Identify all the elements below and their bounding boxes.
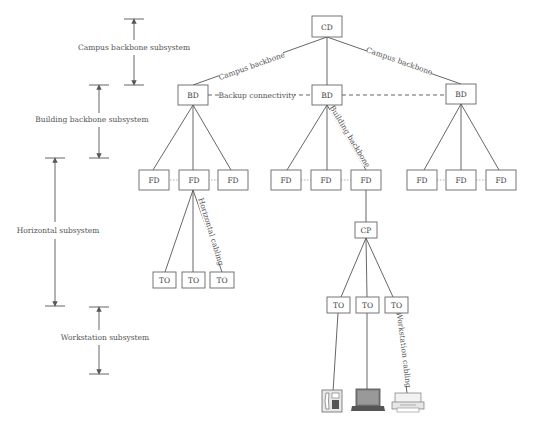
node-fd: FD bbox=[311, 170, 341, 190]
laptop-icon bbox=[351, 389, 385, 411]
svg-text:FD: FD bbox=[360, 176, 371, 185]
workstation-cabling-label: Workstation cabling bbox=[395, 311, 413, 388]
node-to: TO bbox=[210, 272, 234, 288]
printer-icon bbox=[392, 393, 424, 412]
svg-text:FD: FD bbox=[188, 176, 199, 185]
subsystem-building-backbone: Building backbone subsystem bbox=[35, 85, 148, 158]
campus-backbone-links: Campus backbone Campus backbone bbox=[193, 37, 461, 85]
node-fd: FD bbox=[218, 170, 248, 190]
node-to: TO bbox=[153, 272, 176, 288]
node-to: TO bbox=[327, 297, 350, 313]
svg-text:TO: TO bbox=[362, 301, 373, 310]
subsystem-label: Building backbone subsystem bbox=[35, 115, 148, 124]
telephone-icon bbox=[322, 390, 342, 412]
backup-connectivity-label: Backup connectivity bbox=[218, 91, 296, 100]
svg-text:TO: TO bbox=[391, 301, 402, 310]
svg-text:FD: FD bbox=[148, 176, 159, 185]
svg-text:FD: FD bbox=[416, 176, 427, 185]
campus-backbone-label: Campus backbone bbox=[365, 45, 434, 77]
node-bd-mid: BD bbox=[312, 85, 342, 105]
subsystem-workstation: Workstation subsystem bbox=[61, 307, 149, 374]
network-cabling-hierarchy-diagram: Campus backbone subsystem Building backb… bbox=[0, 0, 539, 429]
svg-text:CP: CP bbox=[361, 226, 372, 235]
node-fd: FD bbox=[179, 170, 209, 190]
svg-text:TO: TO bbox=[216, 276, 227, 285]
svg-text:BD: BD bbox=[321, 91, 333, 100]
subsystem-label: Workstation subsystem bbox=[61, 333, 149, 342]
svg-text:FD: FD bbox=[495, 176, 506, 185]
svg-text:TO: TO bbox=[333, 301, 344, 310]
node-to: TO bbox=[385, 297, 408, 313]
node-fd: FD bbox=[407, 170, 437, 190]
subsystem-horizontal: Horizontal subsystem bbox=[17, 158, 100, 306]
campus-backbone-label: Campus backbone bbox=[217, 50, 286, 82]
node-to: TO bbox=[356, 297, 379, 313]
node-cp: CP bbox=[355, 222, 377, 238]
node-cd: CD bbox=[312, 16, 342, 37]
node-fd: FD bbox=[351, 170, 381, 190]
svg-text:FD: FD bbox=[227, 176, 238, 185]
svg-text:CD: CD bbox=[321, 23, 333, 32]
horizontal-cabling-links: Horizontal cabling bbox=[165, 190, 226, 272]
horizontal-cabling-label: Horizontal cabling bbox=[196, 197, 225, 267]
node-fd: FD bbox=[446, 170, 476, 190]
node-fd: FD bbox=[486, 170, 516, 190]
subsystem-label: Horizontal subsystem bbox=[17, 226, 100, 235]
building-backbone-label: Building backbone bbox=[328, 104, 373, 170]
consolidation-point-links bbox=[341, 190, 393, 297]
svg-text:FD: FD bbox=[455, 176, 466, 185]
svg-text:TO: TO bbox=[159, 276, 170, 285]
node-fd: FD bbox=[139, 170, 169, 190]
node-to: TO bbox=[182, 272, 205, 288]
svg-text:FD: FD bbox=[280, 176, 291, 185]
svg-text:BD: BD bbox=[455, 90, 467, 99]
svg-text:TO: TO bbox=[188, 276, 199, 285]
subsystem-label: Campus backbone subsystem bbox=[78, 43, 190, 52]
subsystem-campus-backbone: Campus backbone subsystem bbox=[78, 19, 190, 85]
node-bd-right: BD bbox=[446, 84, 476, 104]
node-bd-left: BD bbox=[178, 85, 208, 105]
building-backbone-links: Building backbone bbox=[153, 103, 499, 170]
node-fd: FD bbox=[271, 170, 301, 190]
svg-text:BD: BD bbox=[187, 91, 199, 100]
svg-text:FD: FD bbox=[320, 176, 331, 185]
workstation-cabling-links: Workstation cabling bbox=[333, 311, 414, 393]
